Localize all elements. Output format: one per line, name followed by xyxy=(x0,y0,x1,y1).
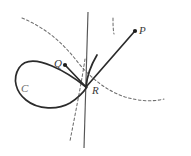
geometry-figure-svg xyxy=(0,0,191,156)
label-point-p: P xyxy=(139,25,146,36)
ray-segment-rp xyxy=(86,32,134,87)
figure-canvas: P Q R C xyxy=(0,0,191,156)
label-curve-c: C xyxy=(21,83,28,94)
curve-c-upper-branch xyxy=(86,55,97,87)
point-p-dot xyxy=(133,29,137,33)
label-point-q: Q xyxy=(54,58,62,69)
label-point-r: R xyxy=(92,85,99,96)
dashed-upper-stub xyxy=(113,18,114,34)
point-q-dot xyxy=(63,63,67,67)
dashed-tangent-line xyxy=(70,59,85,141)
